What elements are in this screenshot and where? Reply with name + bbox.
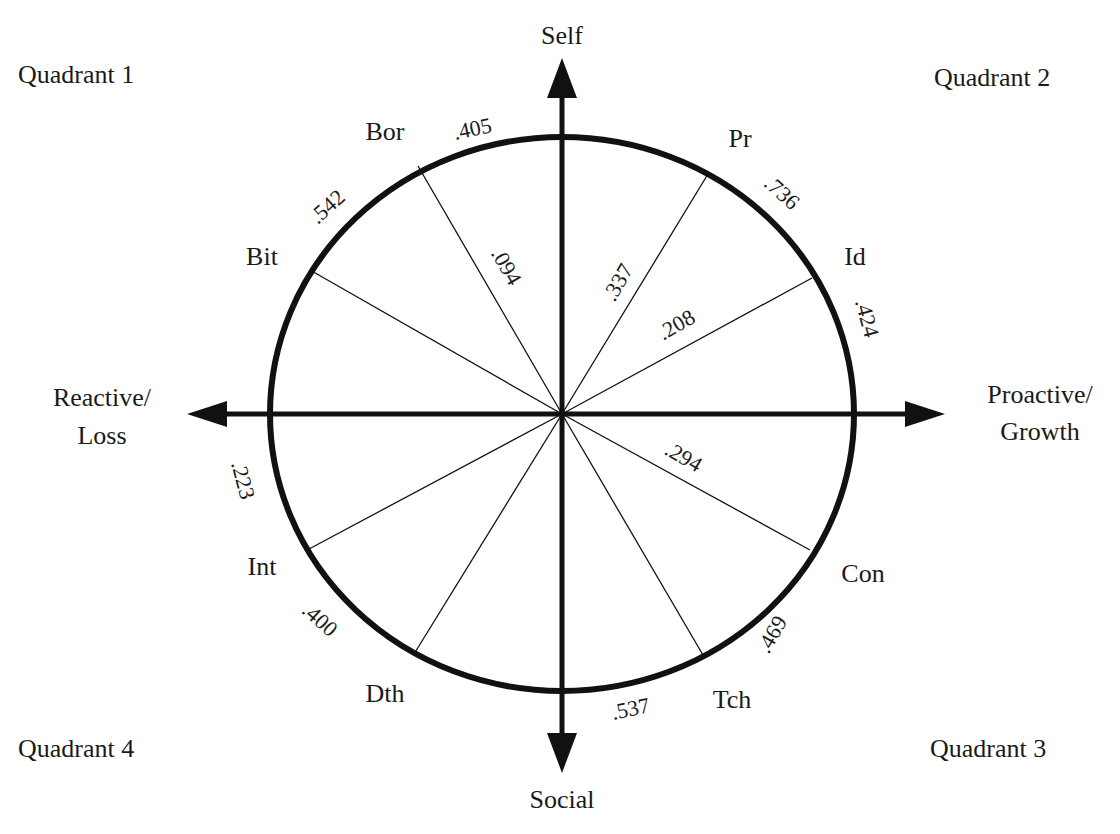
spoke-dth [414,414,562,654]
arrow-left-icon [187,401,227,427]
spoke-value-id: .208 [653,304,699,345]
axis-label-reactive: Reactive/ [53,383,152,412]
sector-label-pr: Pr [728,124,751,153]
sector-label-dth: Dth [366,679,405,708]
arrow-up-icon [547,58,577,98]
quadrant-4-label: Quadrant 4 [18,734,134,763]
sector-label-tch: Tch [713,685,752,714]
axis-label-growth: Growth [1000,417,1079,446]
axis-label-self: Self [541,21,583,50]
sector-label-bit: Bit [246,242,279,271]
sector-label-id: Id [844,242,866,271]
arrow-down-icon [547,733,577,773]
spoke-bit [310,270,562,414]
rim-value-bor-self: .405 [451,112,494,144]
quadrant-3-label: Quadrant 3 [930,734,1046,763]
spoke-id [562,278,812,414]
spoke-con [562,414,810,550]
arrow-right-icon [905,401,945,427]
axis-label-social: Social [530,785,595,814]
spoke-pr [562,174,708,414]
spoke-value-con: .294 [661,436,707,477]
axes [216,92,912,748]
sector-label-con: Con [841,559,884,588]
rim-value-social-tch: .537 [609,692,652,724]
sector-label-bor: Bor [366,117,405,146]
sector-label-int: Int [248,552,278,581]
spoke-bor [418,166,562,414]
spoke-int [309,414,562,549]
rim-value-left-int: .223 [226,458,260,502]
rim-value-int-dth: .400 [297,597,342,641]
axis-label-proactive: Proactive/ [987,380,1093,409]
axis-label-loss: Loss [77,421,126,450]
quadrant-1-label: Quadrant 1 [18,60,134,89]
rim-value-pr-id: .736 [759,170,804,214]
rim-value-bit-bor: .542 [304,184,349,228]
spoke-value-bor: .094 [486,243,527,289]
circumplex-diagram: Self Social Reactive/ Loss Proactive/ Gr… [0,0,1120,834]
rim-value-id-right: .424 [850,296,884,340]
quadrant-2-label: Quadrant 2 [934,63,1050,92]
